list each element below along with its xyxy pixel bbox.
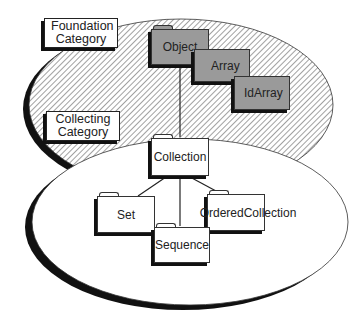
collecting-category-line2: Category — [53, 126, 113, 139]
class-folder-idarray[interactable]: IdArray — [234, 76, 290, 110]
class-name-orderedcollection: OrderedCollection — [200, 206, 297, 220]
class-name-object: Object — [163, 40, 198, 54]
class-folder-collection[interactable]: Collection — [151, 138, 209, 176]
class-folder-sequence[interactable]: Sequence — [154, 227, 210, 263]
class-name-sequence: Sequence — [155, 238, 209, 252]
class-name-idarray: IdArray — [244, 86, 283, 100]
class-name-collection: Collection — [154, 150, 207, 164]
class-name-set: Set — [117, 208, 135, 222]
foundation-category-label: Foundation Category — [44, 18, 118, 48]
collecting-category-label: Collecting Category — [46, 111, 120, 141]
class-folder-set[interactable]: Set — [97, 196, 155, 233]
class-folder-orderedcollection[interactable]: OrderedCollection — [207, 194, 265, 231]
class-name-array: Array — [211, 59, 240, 73]
foundation-category-line2: Category — [51, 33, 111, 46]
